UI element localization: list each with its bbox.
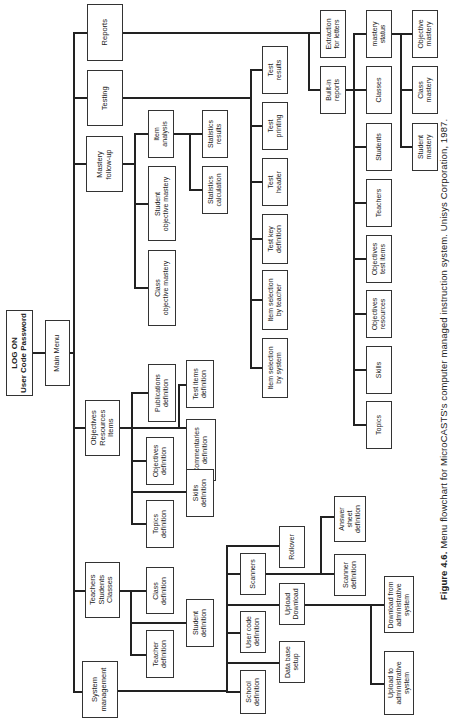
node-rollover: Rollover — [279, 526, 305, 568]
node-topics-definition: Topics definition — [146, 500, 174, 548]
node-test-printing: Test printing — [262, 102, 288, 150]
node-teachers: Teachers — [366, 179, 392, 227]
connector — [353, 424, 366, 426]
connector — [73, 163, 87, 165]
connector — [308, 89, 320, 91]
node-item-selection-system: Item selection by system — [262, 338, 288, 398]
node-objectives-test-items: Objectives test items — [366, 235, 392, 283]
connector — [250, 125, 262, 127]
connector — [250, 69, 252, 369]
connector — [73, 32, 87, 34]
connector — [226, 632, 240, 634]
connector — [353, 258, 366, 260]
connector — [174, 133, 202, 135]
connector — [134, 133, 136, 288]
figure-caption: Figure 4.6. Menu flowchart for MicroCAST… — [432, 0, 456, 718]
node-download-from-admin: Download from administrative system — [384, 576, 414, 633]
connector — [131, 460, 146, 462]
node-class-objective-mastery: Class objective mastery — [148, 250, 176, 326]
connector — [130, 654, 146, 656]
node-class-definition: Class definition — [146, 567, 174, 614]
connector — [134, 287, 148, 289]
connector — [305, 604, 384, 606]
node-skills-definition: Skills definition — [186, 469, 214, 517]
connector — [130, 622, 186, 624]
node-user-code-definition: User code definition — [240, 611, 266, 653]
connector — [189, 189, 202, 191]
node-upload-download: Upload Download — [279, 583, 305, 625]
node-mastery-followup: Mastery follow-up — [86, 136, 123, 192]
connector — [400, 146, 412, 148]
node-upload-to-admin: Upload to administrative system — [384, 651, 414, 715]
connector — [226, 662, 279, 664]
connector — [73, 590, 85, 592]
connector — [392, 33, 412, 35]
node-reports: Reports — [87, 4, 123, 61]
node-scanner-definition: Scanner definition — [334, 554, 366, 596]
node-teachers-students-classes: Teachers Students Classes — [85, 562, 120, 618]
connector — [250, 181, 262, 183]
node-student-definition: Student definition — [186, 599, 214, 647]
node-mastery-status: mastery status — [366, 10, 392, 58]
node-skills: Skills — [366, 346, 392, 394]
connector — [73, 97, 87, 99]
connector — [131, 491, 186, 493]
node-system-management: System management — [82, 661, 118, 718]
node-students: Students — [366, 123, 392, 171]
connector — [178, 384, 186, 386]
connector — [118, 690, 228, 692]
connector — [123, 97, 251, 99]
connector — [226, 691, 240, 693]
connector — [120, 427, 186, 429]
node-item-analysis: Item analysis — [148, 110, 174, 158]
connector — [250, 238, 262, 240]
node-testing: Testing — [87, 70, 123, 126]
node-topics: Topics — [366, 401, 392, 449]
connector — [189, 133, 191, 190]
node-builtin-reports: Built-in reports — [320, 66, 346, 114]
node-test-key-definition: Test key definition — [262, 214, 288, 264]
connector — [250, 69, 262, 71]
connector — [353, 369, 366, 371]
caption-text: Menu flowchart for MicroCASTS's computer… — [439, 118, 450, 551]
caption-label: Figure 4.6. — [439, 551, 450, 600]
connector — [353, 33, 355, 425]
node-school-definition: School definition — [240, 670, 266, 714]
node-main-menu: Main Menu — [45, 320, 70, 386]
connector — [123, 32, 320, 34]
connector — [370, 604, 372, 684]
node-logon: LOG ON User Code Password — [6, 310, 33, 396]
node-objectives-definition: Objectives definition — [146, 437, 174, 485]
connector — [370, 683, 384, 685]
connector — [320, 516, 322, 575]
node-publications-definition: Publications definition — [148, 364, 176, 422]
connector — [134, 133, 148, 135]
node-classes: Classes — [366, 66, 392, 114]
node-teacher-definition: Teacher definition — [146, 630, 174, 678]
connector — [308, 32, 310, 90]
node-test-header: Test header — [262, 158, 288, 206]
connector — [226, 545, 228, 692]
node-answer-sheet-definition: Answer sheet definition — [334, 496, 366, 542]
node-statistics-calculation: Statistics calculation — [202, 166, 228, 214]
node-statistics-results: Statistics results — [202, 110, 228, 158]
connector — [32, 352, 46, 354]
connector — [353, 33, 366, 35]
connector — [131, 523, 146, 525]
connector — [266, 573, 334, 575]
connector — [120, 590, 146, 592]
connector — [226, 573, 240, 575]
connector — [226, 604, 279, 606]
connector — [320, 516, 334, 518]
connector — [73, 427, 85, 429]
connector — [134, 203, 148, 205]
node-objectives-resources-items: Objectives Resources Items — [85, 400, 120, 456]
node-test-items-definition: Test items definition — [186, 360, 214, 408]
connector — [250, 299, 262, 301]
node-test-results: Test results — [262, 46, 288, 94]
node-data-base-setup: Data base setup — [279, 641, 305, 683]
connector — [250, 367, 262, 369]
node-scanners: Scanners — [240, 553, 266, 595]
node-item-selection-teacher: Item selection by teacher — [262, 270, 288, 330]
connector — [353, 146, 366, 148]
